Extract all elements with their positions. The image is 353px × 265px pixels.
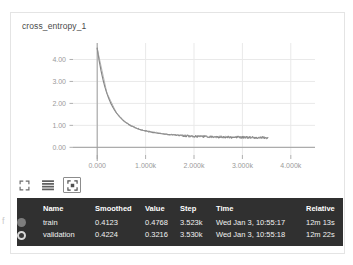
- svg-text:1.000k: 1.000k: [135, 162, 157, 169]
- svg-text:0.00: 0.00: [52, 144, 66, 151]
- legend-cell-relative: 12m 22s: [306, 229, 343, 242]
- legend-cell-time: Wed Jan 3, 10:55:17: [216, 216, 306, 229]
- legend-header-name[interactable]: Name: [43, 202, 95, 216]
- series-legend-tooltip[interactable]: Name Smoothed Value Step Time Relative t…: [17, 198, 343, 246]
- series-color-swatch-validation: [17, 229, 43, 242]
- legend-header-step[interactable]: Step: [180, 202, 216, 216]
- expand-corners-icon: [19, 180, 30, 191]
- legend-header-value[interactable]: Value: [145, 202, 180, 216]
- legend-cell-step: 3.523k: [180, 216, 216, 229]
- legend-cell-step: 3.530k: [180, 229, 216, 242]
- chart-toolbar[interactable]: [15, 177, 81, 193]
- chart-title: cross_entropy_1: [22, 21, 86, 31]
- legend-header-time[interactable]: Time: [216, 202, 306, 216]
- background-artifact-text: f: [2, 216, 5, 226]
- swatch-filled-icon: [17, 218, 26, 227]
- svg-text:3.00: 3.00: [52, 78, 66, 85]
- svg-text:4.000k: 4.000k: [280, 162, 302, 169]
- legend-cell-relative: 12m 13s: [306, 216, 343, 229]
- table-row[interactable]: train 0.4123 0.4768 3.523k Wed Jan 3, 10…: [17, 216, 343, 229]
- legend-cell-name: train: [43, 216, 95, 229]
- expand-corners-icon-button[interactable]: [15, 177, 33, 193]
- svg-text:3.000k: 3.000k: [232, 162, 254, 169]
- legend-cell-name: validation: [43, 229, 95, 242]
- chart-plot-area[interactable]: 0.001.002.003.004.00 0.0001.000k2.000k3.…: [11, 35, 346, 185]
- legend-header-relative[interactable]: Relative: [306, 202, 343, 216]
- table-row[interactable]: validation 0.4224 0.3216 3.530k Wed Jan …: [17, 229, 343, 242]
- svg-text:2.000k: 2.000k: [183, 162, 205, 169]
- legend-cell-smoothed: 0.4123: [95, 216, 145, 229]
- y-axis-ticks: 0.001.002.003.004.00: [52, 56, 73, 151]
- legend-cell-smoothed: 0.4224: [95, 229, 145, 242]
- legend-table: Name Smoothed Value Step Time Relative t…: [17, 202, 343, 241]
- legend-header-swatch: [17, 202, 43, 216]
- legend-header-smoothed[interactable]: Smoothed: [95, 202, 145, 216]
- scalar-line-chart[interactable]: 0.001.002.003.004.00 0.0001.000k2.000k3.…: [11, 35, 346, 185]
- svg-text:1.00: 1.00: [52, 122, 66, 129]
- fit-to-screen-icon-button[interactable]: [63, 177, 81, 193]
- swatch-hollow-icon: [17, 231, 26, 240]
- fit-to-screen-icon: [67, 180, 78, 191]
- svg-text:2.00: 2.00: [52, 100, 66, 107]
- legend-cell-value: 0.4768: [145, 216, 180, 229]
- data-table-icon-button[interactable]: [39, 177, 57, 193]
- legend-cell-time: Wed Jan 3, 10:55:18: [216, 229, 306, 242]
- legend-header-row: Name Smoothed Value Step Time Relative: [17, 202, 343, 216]
- x-axis-ticks: 0.0001.000k2.000k3.000k4.000k: [88, 155, 301, 169]
- data-table-icon: [42, 180, 54, 191]
- svg-text:4.00: 4.00: [52, 56, 66, 63]
- svg-text:0.000: 0.000: [88, 162, 106, 169]
- legend-cell-value: 0.3216: [145, 229, 180, 242]
- series-color-swatch-train: [17, 216, 43, 229]
